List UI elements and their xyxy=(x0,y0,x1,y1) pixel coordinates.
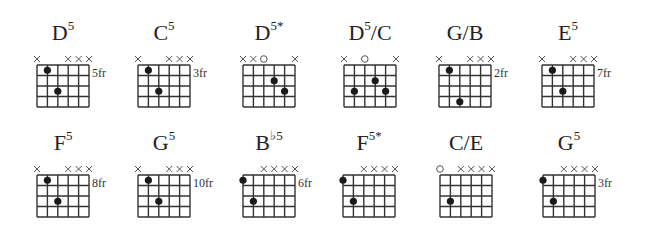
chord-superscript: 5 xyxy=(168,18,175,33)
chord-diagram: D5* xyxy=(243,21,343,121)
muted-string-icon xyxy=(592,166,598,172)
muted-string-icon xyxy=(135,166,141,172)
chord-name: D5/C xyxy=(344,21,396,45)
fretboard-grid xyxy=(33,161,93,223)
finger-dot xyxy=(456,98,463,105)
muted-string-icon xyxy=(76,56,82,62)
muted-string-icon xyxy=(392,166,398,172)
muted-string-icon xyxy=(65,56,71,62)
muted-string-icon xyxy=(292,166,298,172)
muted-string-icon xyxy=(166,56,172,62)
finger-dot xyxy=(44,67,51,74)
muted-string-icon xyxy=(187,166,193,172)
fretboard-grid xyxy=(539,161,599,223)
finger-dot xyxy=(446,67,453,74)
muted-string-icon xyxy=(250,56,256,62)
fret-position-label: 7fr xyxy=(597,67,611,79)
chord-superscript: 5* xyxy=(369,128,382,143)
chord-superscript: 5 xyxy=(68,18,75,33)
chord-diagram: G53fr xyxy=(543,131,643,231)
chord-root: D xyxy=(255,20,271,45)
muted-string-icon xyxy=(341,56,347,62)
fret-position-label: 2fr xyxy=(494,67,508,79)
fret-position-label: 3fr xyxy=(193,67,207,79)
finger-dot xyxy=(550,198,557,205)
chord-root: F xyxy=(54,130,66,155)
chord-diagram: C/E xyxy=(440,131,540,231)
chord-name: D5* xyxy=(243,21,295,45)
muted-string-icon xyxy=(571,166,577,172)
finger-dot xyxy=(54,88,61,95)
fret-position-label: 10fr xyxy=(193,177,213,189)
muted-string-icon xyxy=(591,56,597,62)
muted-string-icon xyxy=(240,56,246,62)
muted-string-icon xyxy=(393,56,399,62)
muted-string-icon xyxy=(135,56,141,62)
finger-dot xyxy=(54,198,61,205)
fret-position-label: 5fr xyxy=(92,67,106,79)
muted-string-icon xyxy=(177,56,183,62)
finger-dot xyxy=(549,67,556,74)
finger-dot xyxy=(351,88,358,95)
chord-name: C/E xyxy=(440,131,492,155)
muted-string-icon xyxy=(561,166,567,172)
muted-string-icon xyxy=(489,166,495,172)
chord-name: G/B xyxy=(439,21,491,45)
muted-string-icon xyxy=(76,166,82,172)
muted-string-icon xyxy=(282,166,288,172)
muted-string-icon xyxy=(478,56,484,62)
chord-name: D5 xyxy=(37,21,89,45)
chord-root: G xyxy=(558,130,574,155)
chord-root: C/E xyxy=(449,130,483,155)
muted-string-icon xyxy=(261,166,267,172)
fretboard-grid xyxy=(436,161,496,223)
chord-name: G5 xyxy=(543,131,595,155)
muted-string-icon xyxy=(271,166,277,172)
chord-diagram: B♭56fr xyxy=(243,131,343,231)
fret-position-label: 8fr xyxy=(92,177,106,189)
chord-superscript: 5 xyxy=(364,18,371,33)
finger-dot xyxy=(339,177,346,184)
chord-diagram: G510fr xyxy=(138,131,238,231)
chord-root: F xyxy=(356,130,368,155)
muted-string-icon xyxy=(382,166,388,172)
muted-string-icon xyxy=(34,166,40,172)
chord-name: G5 xyxy=(138,131,190,155)
finger-dot xyxy=(350,198,357,205)
fretboard-grid xyxy=(134,51,194,113)
muted-string-icon xyxy=(570,56,576,62)
muted-string-icon xyxy=(582,166,588,172)
fretboard-grid xyxy=(134,161,194,223)
finger-dot xyxy=(250,198,257,205)
muted-string-icon xyxy=(34,56,40,62)
muted-string-icon xyxy=(468,166,474,172)
muted-string-icon xyxy=(458,166,464,172)
chord-root: B xyxy=(255,130,270,155)
finger-dot xyxy=(281,88,288,95)
open-string-icon xyxy=(437,166,444,173)
fretboard-grid xyxy=(239,51,299,113)
chord-root: D xyxy=(52,20,68,45)
finger-dot xyxy=(447,198,454,205)
muted-string-icon xyxy=(177,166,183,172)
chord-diagram: F5* xyxy=(343,131,443,231)
chord-root: G xyxy=(153,130,169,155)
fretboard-grid xyxy=(435,51,495,113)
muted-string-icon xyxy=(467,56,473,62)
muted-string-icon xyxy=(86,56,92,62)
chord-diagram: D55fr xyxy=(37,21,137,121)
finger-dot xyxy=(539,177,546,184)
muted-string-icon xyxy=(65,166,71,172)
chord-name: F5* xyxy=(343,131,395,155)
chord-root: G/B xyxy=(447,20,484,45)
muted-string-icon xyxy=(187,56,193,62)
muted-string-icon xyxy=(581,56,587,62)
chord-diagram: G/B2fr xyxy=(439,21,539,121)
muted-string-icon xyxy=(479,166,485,172)
chord-diagram: C53fr xyxy=(138,21,238,121)
chord-name: B♭5 xyxy=(243,131,295,155)
chord-superscript: 5* xyxy=(270,18,283,33)
chord-root: D xyxy=(348,20,364,45)
muted-string-icon xyxy=(292,56,298,62)
chord-name: C5 xyxy=(138,21,190,45)
